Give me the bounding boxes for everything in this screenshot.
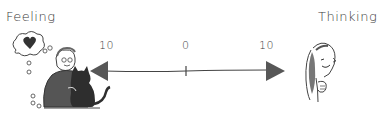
thinking-illustration-icon — [0, 0, 373, 118]
feeling-thinking-diagram: Feeling Thinking 10 0 10 — [0, 0, 373, 118]
